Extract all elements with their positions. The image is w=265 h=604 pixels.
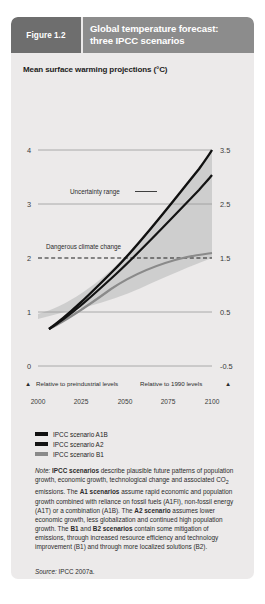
chart-plot-area: 4 3 2 1 0 3.5 2.5 1.5 0.5 -0.5 Uncertain… (11, 83, 254, 413)
x-axis-tick-2100: 2100 (205, 398, 220, 405)
left-axis-note-label: Relative to preindustrial levels (36, 380, 118, 387)
figure-card: Figure 1.2 Global temperature forecast: … (11, 17, 254, 579)
legend-swatch-a1b (35, 432, 48, 435)
legend-swatch-b1 (35, 452, 48, 455)
figure-title-line-2: three IPCC scenarios (90, 35, 247, 47)
figure-tag-number: 1.2 (54, 31, 66, 40)
right-axis-note-label: Relative to 1990 levels (140, 380, 202, 387)
legend-item-a2: IPCC scenario A2 (35, 439, 108, 449)
y-axis-right-tick-1_5: 1.5 (220, 254, 230, 263)
x-axis-tick-2075: 2075 (161, 398, 176, 405)
legend-label-a2: IPCC scenario A2 (53, 441, 103, 448)
legend-swatch-a2 (35, 442, 48, 445)
figure-header: Figure 1.2 Global temperature forecast: … (11, 17, 254, 53)
figure-tag-label: Figure (26, 31, 52, 40)
x-axis-tick-2025: 2025 (74, 398, 89, 405)
y-axis-right-tick-3_5: 3.5 (220, 146, 230, 155)
left-axis-note-marker-icon: ▲ (25, 380, 31, 387)
figure-number-tag: Figure 1.2 (11, 17, 81, 53)
chart-title: Mean surface warming projections (°C) (23, 65, 167, 74)
y-axis-left-tick-4: 4 (27, 146, 31, 155)
x-axis-tick-2050: 2050 (118, 398, 133, 405)
dangerous-climate-change-label: Dangerous climate change (46, 243, 121, 251)
note-body: IPCC scenarios describe plausible future… (35, 467, 233, 550)
temperature-projection-chart: 4 3 2 1 0 3.5 2.5 1.5 0.5 -0.5 Uncertain… (11, 83, 254, 413)
legend-item-a1b: IPCC scenario A1B (35, 429, 108, 439)
y-axis-left-tick-2: 2 (27, 254, 31, 263)
right-axis-note-marker-icon: ▲ (225, 380, 231, 387)
y-axis-right-tick-0_5: 0.5 (220, 308, 230, 317)
uncertainty-range-label: Uncertainty range (70, 188, 120, 196)
legend-label-a1b: IPCC scenario A1B (53, 431, 108, 438)
source-value: IPCC 2007a. (57, 568, 95, 575)
figure-source: Source: IPCC 2007a. (35, 568, 95, 575)
y-axis-left-tick-0: 0 (27, 362, 31, 371)
note-label: Note: (35, 467, 50, 474)
uncertainty-band (38, 150, 212, 319)
figure-title-line-1: Global temperature forecast: (90, 23, 247, 35)
y-axis-left-tick-1: 1 (27, 308, 31, 317)
y-axis-right-tick-2_5: 2.5 (220, 200, 230, 209)
chart-legend: IPCC scenario A1B IPCC scenario A2 IPCC … (35, 429, 108, 459)
figure-note: Note: IPCC scenarios describe plausible … (35, 466, 238, 551)
y-axis-right-tick-minus-0_5: -0.5 (220, 362, 233, 371)
legend-item-b1: IPCC scenario B1 (35, 449, 108, 459)
source-label: Source: (35, 568, 57, 575)
figure-title: Global temperature forecast: three IPCC … (83, 17, 254, 53)
legend-label-b1: IPCC scenario B1 (53, 451, 104, 458)
x-axis-tick-2000: 2000 (31, 398, 46, 405)
y-axis-left-tick-3: 3 (27, 200, 31, 209)
